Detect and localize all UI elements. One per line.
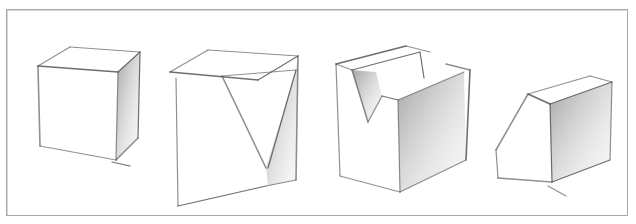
chamfered-cube-sketch [496, 76, 612, 196]
plain-cube-sketch [38, 47, 140, 166]
corner-cut-cube-sketch [170, 50, 298, 206]
v-notch-cube-sketch [336, 46, 470, 192]
cube-sketch-drawing [0, 0, 636, 224]
figure-canvas [0, 0, 636, 224]
